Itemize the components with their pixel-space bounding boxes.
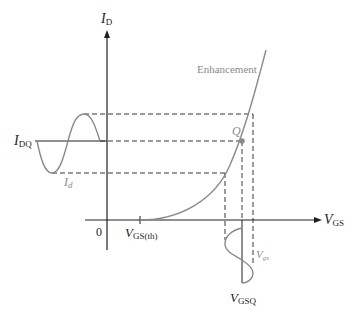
q-point-label: Q <box>232 125 241 137</box>
vgs-axis-label: VGS <box>324 213 344 228</box>
vgs-subscript: GS <box>333 218 345 228</box>
vgs-sine-wave <box>225 228 253 283</box>
vgs-signal-subscript: gs <box>263 254 269 262</box>
enhancement-curve <box>140 50 266 220</box>
vgsq-symbol: V <box>230 290 238 305</box>
id-sine-wave <box>37 114 100 173</box>
id-axis-label: ID <box>101 12 112 27</box>
vgs-symbol: V <box>324 212 333 227</box>
origin-label: 0 <box>96 226 102 238</box>
vgs-signal-symbol: V <box>256 248 263 260</box>
id-signal-subscript: d <box>68 180 73 190</box>
idq-label: IDQ <box>14 134 32 149</box>
vgs-th-symbol: V <box>125 225 133 240</box>
vgsq-subscript: GSQ <box>238 296 256 306</box>
q-point <box>239 138 245 144</box>
vgsq-label: VGSQ <box>230 291 256 306</box>
transfer-characteristic-diagram <box>0 0 353 315</box>
idq-subscript: DQ <box>19 139 32 149</box>
id-signal-label: Id <box>64 176 73 190</box>
id-subscript: D <box>106 17 113 27</box>
vgs-th-subscript: GS(th) <box>133 231 158 241</box>
id-axis-arrow-icon <box>104 30 110 38</box>
vgs-signal-label: Vgs <box>256 249 269 262</box>
enhancement-label: Enhancement <box>197 64 257 75</box>
vgs-th-label: VGS(th) <box>125 226 157 241</box>
vgs-axis-arrow-icon <box>314 217 322 223</box>
